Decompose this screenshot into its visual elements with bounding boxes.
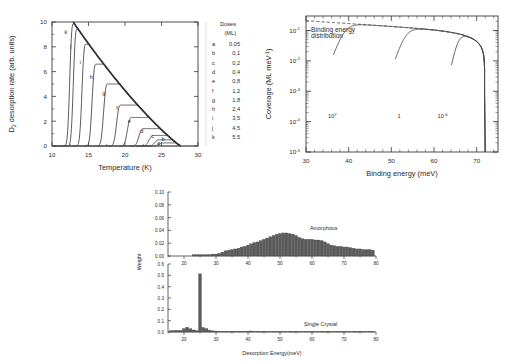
legend-value-h: 2,4 <box>232 106 240 112</box>
legend-key-d: d <box>212 69 215 75</box>
histogram-bar <box>237 248 240 256</box>
histogram-bar <box>215 254 218 256</box>
svg-text:10-2: 10-2 <box>289 56 300 64</box>
y-tick-label: 0 <box>44 142 48 149</box>
histogram-bar <box>259 241 262 256</box>
legend-subtitle: (ML) <box>225 30 237 36</box>
histogram-bar <box>202 327 205 332</box>
histogram-bar <box>253 243 256 256</box>
svg-text:distribution: distribution <box>311 32 343 39</box>
x-tick-label: 30 <box>213 337 219 342</box>
y-tick-label: 0.0 <box>158 330 165 335</box>
legend-key-c: c <box>212 60 215 66</box>
coverage-curve-2 <box>395 29 485 152</box>
histogram-bar <box>339 246 342 256</box>
y-tick-label: 0.2 <box>158 307 165 312</box>
histogram-bar <box>218 331 221 332</box>
histogram-bar <box>256 242 259 256</box>
tpd-curve-label-i: i <box>80 59 81 65</box>
histogram-bar <box>295 236 298 256</box>
svg-text:10-6: 10-6 <box>438 112 449 119</box>
histogram-bar <box>279 234 282 256</box>
y-tick-label: 0.6 <box>158 262 165 267</box>
y-tick-label: 0.1 <box>158 319 165 324</box>
coverage-curve-3 <box>451 37 485 152</box>
legend-key-f: f <box>212 88 214 94</box>
legend-key-i: i <box>212 115 213 121</box>
y-tick-label: 0.02 <box>155 241 164 246</box>
x-tick-label: 20 <box>122 151 129 158</box>
x-tick-label: 80 <box>373 261 379 266</box>
histogram-bar <box>317 240 320 256</box>
legend-value-k: 5,5 <box>232 134 240 140</box>
x-axis-title: Desorption Energy(meV) <box>242 350 302 356</box>
histogram-bar <box>208 255 211 256</box>
y-axis-title: D2 desorption rate (arb. units) <box>7 35 17 132</box>
histogram-bar <box>247 331 250 332</box>
histogram-bar <box>359 249 362 256</box>
histogram-bar <box>227 250 230 256</box>
x-tick-label: 25 <box>158 151 165 158</box>
histogram-bar <box>263 239 266 256</box>
x-tick-label: 15 <box>85 151 92 158</box>
y-tick-label: 0.5 <box>158 273 165 278</box>
coverage-curves: 107110-6 <box>306 21 485 152</box>
series-label: Amorphous <box>310 225 338 231</box>
legend-doses: Doses(ML)a0,05b0,1c0,2d0,4e0,8f1,2g1,8h2… <box>206 21 240 146</box>
y-axis-title: Coverage (ML meV-1) <box>264 49 273 120</box>
legend-key-h: h <box>212 106 215 112</box>
y-tick-label: 10-5 <box>289 148 300 156</box>
panel-tpd-spectra: 10152025300246810Temperature (K)D2 desor… <box>0 0 258 182</box>
x-tick-label: 40 <box>245 261 251 266</box>
svg-text:10-1: 10-1 <box>289 26 300 34</box>
coverage-curve-label-1: 107 <box>328 112 337 119</box>
x-tick-label: 70 <box>341 337 347 342</box>
histogram-bar <box>371 250 374 256</box>
svg-text:10-5: 10-5 <box>289 148 300 156</box>
y-tick-label: 10 <box>40 18 47 25</box>
histogram-bar <box>349 248 352 256</box>
histogram-bar <box>170 331 173 332</box>
histogram-bar <box>311 239 314 256</box>
histogram-bar <box>304 239 307 256</box>
histogram-bar <box>330 245 333 256</box>
histogram-bar <box>285 233 288 256</box>
svg-text:Coverage (ML meV-1): Coverage (ML meV-1) <box>264 49 273 120</box>
legend-key-g: g <box>212 97 215 103</box>
svg-text:10-3: 10-3 <box>289 87 300 95</box>
histogram-bar <box>234 331 237 332</box>
histogram-bar <box>352 248 355 256</box>
histogram-bar <box>307 239 310 256</box>
coverage-curve-label-2: 1 <box>398 113 401 119</box>
histogram-bar <box>323 242 326 256</box>
y-tick-label: 10-1 <box>289 26 300 34</box>
histogram-bar <box>231 331 234 332</box>
y-tick-label: 0.08 <box>155 203 164 208</box>
legend-value-e: 0,8 <box>232 78 240 84</box>
svg-text:Weight: Weight <box>136 253 142 270</box>
y-tick-label: 10-4 <box>289 117 300 125</box>
y-tick-label: 8 <box>44 43 48 50</box>
y-tick-label: 0.04 <box>155 228 164 233</box>
x-tick-label: 50 <box>277 337 283 342</box>
tpd-curve-label-e: e <box>128 118 131 124</box>
x-tick-label: 30 <box>303 157 310 164</box>
tpd-curve-label-c: c <box>151 133 154 139</box>
y-tick-label: 0.10 <box>155 190 164 195</box>
histogram-bar <box>192 330 195 332</box>
tpd-curve-e <box>108 117 180 146</box>
svg-text:1: 1 <box>398 113 401 119</box>
histogram-bar <box>195 331 198 332</box>
y-tick-label: 0.00 <box>155 254 164 259</box>
histogram-bar <box>192 255 195 256</box>
histogram-bar <box>183 329 186 332</box>
legend-value-g: 1,8 <box>232 97 240 103</box>
x-tick-label: 40 <box>245 337 251 342</box>
y-tick-label: 10-3 <box>289 87 300 95</box>
binding-energy-distribution-annotation: Binding energydistribution <box>311 26 356 39</box>
histogram-bar <box>320 241 323 256</box>
svg-text:D2 desorption rate (arb. units: D2 desorption rate (arb. units) <box>7 35 17 132</box>
histogram-bar <box>195 255 198 256</box>
histogram-bar <box>253 331 256 332</box>
y-tick-label: 10-2 <box>289 56 300 64</box>
